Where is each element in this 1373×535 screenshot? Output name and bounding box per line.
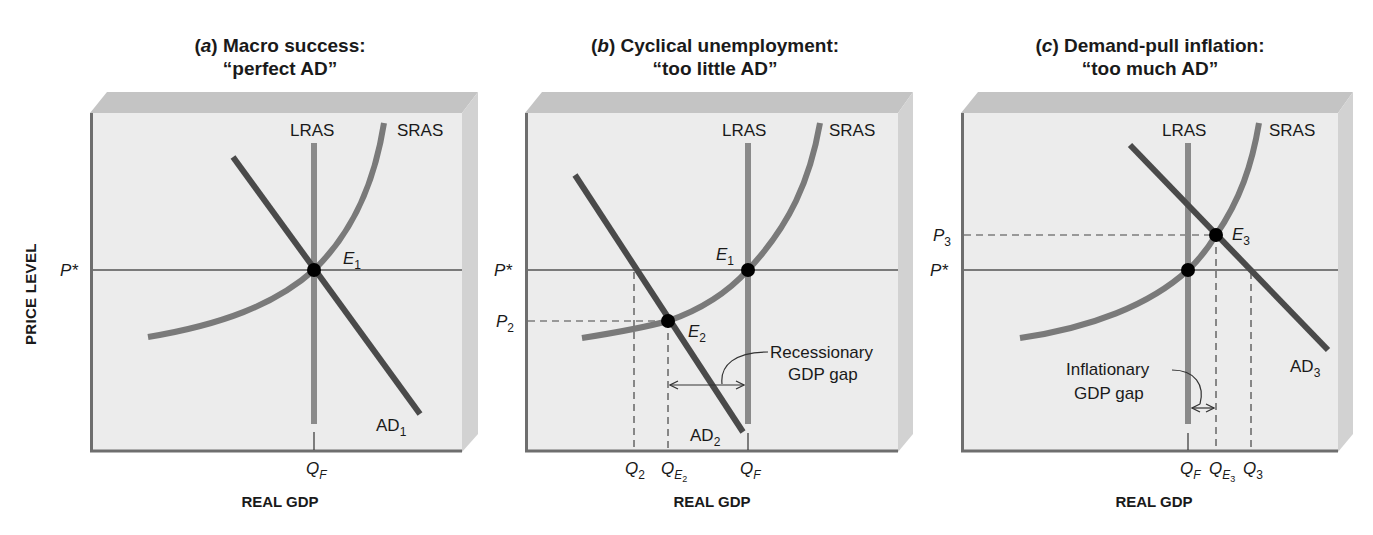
panel-a-side-face	[462, 92, 478, 452]
panel-b-p-star-label: P*	[494, 261, 513, 280]
label-sub: 1	[727, 254, 734, 268]
label-sub: 2	[638, 468, 645, 482]
label-sub: 3	[944, 235, 951, 249]
panel-c-gap-label-line1: Inflationary	[1066, 360, 1150, 379]
label-sub: 3	[1314, 366, 1321, 380]
label-sub: F	[319, 468, 327, 482]
label-sub: F	[1193, 468, 1201, 482]
panel-b-side-face	[898, 92, 913, 452]
label-main: AD	[1290, 357, 1314, 376]
label-main: Q	[1180, 459, 1193, 478]
panel-c-p3-label: P3	[933, 226, 951, 249]
panel-c-top-face	[961, 92, 1353, 113]
panel-c-p-star-label: P*	[930, 261, 949, 280]
figure-canvas: LRAS SRAS E1 P* AD1 QF LRA	[0, 0, 1373, 535]
label-sub: 2	[714, 435, 721, 449]
panel-a-top-face	[90, 92, 478, 113]
panel-c-lras-label: LRAS	[1162, 121, 1206, 140]
panel-b: LRAS SRAS E1 E2 P* P2 Recessionary GDP g…	[494, 92, 913, 484]
label-sub: 2	[507, 321, 514, 335]
panel-c: LRAS SRAS E3 P3 P* Inflationary GDP gap …	[930, 92, 1353, 484]
label-main: E	[1232, 225, 1244, 244]
panel-b-gap-label-line1: Recessionary	[770, 343, 873, 362]
label-sub: 1	[354, 258, 361, 272]
panel-b-qe2-label: QE2	[661, 459, 687, 484]
panel-c-qf-label: QF	[1180, 459, 1201, 482]
label-sub: F	[753, 468, 761, 482]
label-main: Q	[1209, 459, 1222, 478]
label-main: Q	[740, 459, 753, 478]
label-main: P	[496, 312, 508, 331]
label-main: E	[716, 245, 728, 264]
label-sub: 1	[400, 425, 407, 439]
panel-b-lras-label: LRAS	[722, 121, 766, 140]
panel-c-q3-label: Q3	[1243, 459, 1263, 482]
panel-b-sras-label: SRAS	[829, 121, 875, 140]
panel-a-equilibrium-point	[307, 263, 321, 277]
panel-b-e1-point	[741, 263, 755, 277]
label-main: Q	[625, 459, 638, 478]
label-main: P	[933, 226, 945, 245]
panel-b-e2-point	[661, 314, 675, 328]
panel-a-qf-label: QF	[306, 459, 327, 482]
panel-b-p2-label: P2	[496, 312, 514, 335]
label-main: Q	[306, 459, 319, 478]
panel-b-plot-area	[525, 113, 898, 452]
panel-b-gap-label-line2: GDP gap	[788, 365, 858, 384]
label-sub: 2	[699, 331, 706, 345]
label-subsub: 3	[1230, 474, 1235, 484]
label-main: Q	[661, 459, 674, 478]
label-subsub: 2	[682, 474, 687, 484]
panel-c-side-face	[1338, 92, 1353, 452]
label-main: E	[688, 322, 700, 341]
panel-c-sras-label: SRAS	[1269, 121, 1315, 140]
label-main: E	[343, 249, 355, 268]
panel-a-p-star-label: P*	[60, 261, 79, 280]
label-sub: 3	[1256, 468, 1263, 482]
label-main: AD	[690, 426, 714, 445]
panel-a-sras-label: SRAS	[397, 121, 443, 140]
label-main: AD	[376, 416, 400, 435]
panel-b-qf-label: QF	[740, 459, 761, 482]
panel-c-gap-label-line2: GDP gap	[1074, 384, 1144, 403]
panel-a: LRAS SRAS E1 P* AD1 QF	[60, 92, 478, 482]
panel-b-top-face	[525, 92, 913, 113]
panel-c-full-employment-point	[1181, 263, 1195, 277]
panel-c-e3-point	[1209, 228, 1223, 242]
label-main: Q	[1243, 459, 1256, 478]
panel-a-lras-label: LRAS	[290, 121, 334, 140]
panel-b-q2-label: Q2	[625, 459, 645, 482]
panel-a-plot-area	[90, 113, 462, 452]
panel-c-qe3-label: QE3	[1209, 459, 1235, 484]
label-sub: 3	[1243, 234, 1250, 248]
